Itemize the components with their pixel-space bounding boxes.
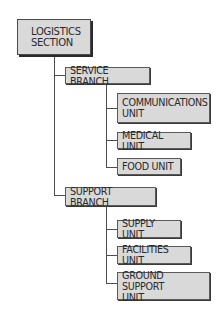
node-label: FACILITIES UNIT — [122, 244, 186, 266]
node-supply-unit: SUPPLY UNIT — [117, 220, 181, 238]
node-logistics-section: LOGISTICS SECTION — [17, 19, 91, 55]
connector-support-facilities — [106, 255, 117, 256]
org-chart: LOGISTICS SECTION SERVICE BRANCH COMMUNI… — [0, 0, 221, 317]
node-communications-unit: COMMUNICATIONS UNIT — [117, 93, 210, 123]
node-label: LOGISTICS SECTION — [31, 26, 81, 48]
node-label: GROUND SUPPORT UNIT — [122, 270, 205, 303]
node-food-unit: FOOD UNIT — [117, 158, 181, 175]
connector-support-ground — [106, 283, 117, 284]
connector-service-food — [106, 167, 117, 168]
connector-support-supply — [106, 229, 117, 230]
node-medical-unit: MEDICAL UNIT — [117, 132, 191, 149]
node-service-branch: SERVICE BRANCH — [65, 67, 150, 84]
connector-service-communications — [106, 108, 117, 109]
connector-root-service — [54, 75, 65, 76]
node-label: COMMUNICATIONS UNIT — [122, 97, 208, 119]
node-facilities-unit: FACILITIES UNIT — [117, 246, 191, 264]
node-support-branch: SUPPORT BRANCH — [65, 187, 156, 206]
connector-service-vertical — [106, 84, 107, 168]
node-label: MEDICAL UNIT — [122, 130, 186, 152]
node-label: FOOD UNIT — [122, 161, 173, 172]
connector-service-medical — [106, 140, 117, 141]
connector-root-support — [54, 195, 65, 196]
connector-root-vertical — [54, 55, 55, 196]
node-label: SERVICE BRANCH — [70, 65, 145, 87]
node-label: SUPPLY UNIT — [122, 218, 176, 240]
node-label: SUPPORT BRANCH — [70, 186, 151, 208]
node-ground-support-unit: GROUND SUPPORT UNIT — [117, 272, 210, 300]
connector-support-vertical — [106, 207, 107, 284]
